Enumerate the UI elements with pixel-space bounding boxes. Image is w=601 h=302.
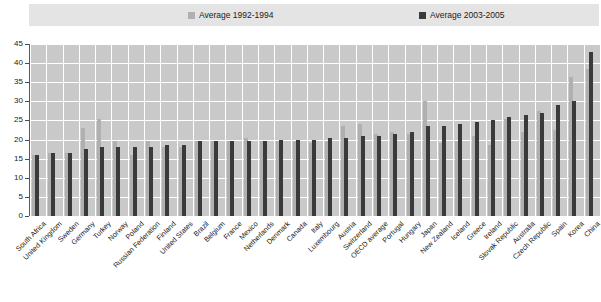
bar-average-2003-2005 bbox=[328, 138, 332, 216]
bar-group bbox=[111, 44, 127, 216]
bar-group bbox=[160, 44, 176, 216]
bar-average-2003-2005 bbox=[247, 141, 251, 216]
bar-average-2003-2005 bbox=[410, 132, 414, 216]
bar-group bbox=[551, 44, 567, 216]
y-axis-tick: 40 bbox=[0, 63, 29, 64]
bar-average-2003-2005 bbox=[524, 115, 528, 216]
bar-group bbox=[291, 44, 307, 216]
bar-average-2003-2005 bbox=[68, 153, 72, 216]
bar-average-2003-2005 bbox=[279, 140, 283, 216]
bar-average-2003-2005 bbox=[458, 124, 462, 216]
bar-average-2003-2005 bbox=[263, 141, 267, 216]
bar-group bbox=[242, 44, 258, 216]
y-axis-tick-label: 45 bbox=[14, 39, 23, 48]
bar-group bbox=[372, 44, 388, 216]
bar-group bbox=[388, 44, 404, 216]
bar-average-2003-2005 bbox=[230, 141, 234, 216]
y-axis-tick: 30 bbox=[0, 101, 29, 102]
bar-group bbox=[177, 44, 193, 216]
bar-group bbox=[486, 44, 502, 216]
bar-group bbox=[470, 44, 486, 216]
bar-group bbox=[274, 44, 290, 216]
y-axis-tick-label: 10 bbox=[14, 173, 23, 182]
bar-average-2003-2005 bbox=[116, 147, 120, 216]
bar-group bbox=[535, 44, 551, 216]
bar-average-2003-2005 bbox=[540, 113, 544, 216]
bar-average-2003-2005 bbox=[133, 147, 137, 216]
x-axis-labels: South AfricaUnited KingdomSwedenGermanyT… bbox=[29, 216, 599, 302]
bar-average-2003-2005 bbox=[507, 117, 511, 216]
bar-group bbox=[421, 44, 437, 216]
bar-average-2003-2005 bbox=[572, 101, 576, 216]
bar-average-2003-2005 bbox=[377, 136, 381, 216]
bar-average-2003-2005 bbox=[344, 138, 348, 216]
bar-average-2003-2005 bbox=[182, 145, 186, 216]
legend-entry-1992-1994: Average 1992-1994 bbox=[188, 11, 274, 20]
x-axis-label: Korea bbox=[566, 220, 585, 239]
x-axis-label: Spain bbox=[550, 220, 569, 239]
bar-average-2003-2005 bbox=[296, 140, 300, 216]
y-axis-tick: 0 bbox=[0, 216, 29, 217]
y-axis-tick-label: 20 bbox=[14, 135, 23, 144]
bar-average-2003-2005 bbox=[100, 147, 104, 216]
y-axis-tick-label: 35 bbox=[14, 77, 23, 86]
y-axis-tick-label: 40 bbox=[14, 58, 23, 67]
bar-average-2003-2005 bbox=[84, 149, 88, 216]
y-axis-tick-label: 5 bbox=[19, 192, 23, 201]
legend-entry-2003-2005: Average 2003-2005 bbox=[419, 11, 505, 20]
y-axis-tick-label: 30 bbox=[14, 96, 23, 105]
y-axis: 051015202530354045 bbox=[0, 44, 29, 216]
bar-average-2003-2005 bbox=[165, 145, 169, 216]
bar-group bbox=[453, 44, 469, 216]
legend-swatch-1992-1994 bbox=[188, 12, 195, 19]
y-axis-tick-label: 25 bbox=[14, 115, 23, 124]
plot-area bbox=[29, 44, 600, 216]
bar-group bbox=[63, 44, 79, 216]
bar-group bbox=[225, 44, 241, 216]
bar-average-2003-2005 bbox=[214, 141, 218, 216]
bar-group bbox=[209, 44, 225, 216]
bar-group bbox=[144, 44, 160, 216]
bar-group bbox=[567, 44, 583, 216]
bar-group bbox=[437, 44, 453, 216]
bar-group bbox=[307, 44, 323, 216]
bar-group bbox=[193, 44, 209, 216]
bar-group bbox=[95, 44, 111, 216]
bar-average-2003-2005 bbox=[361, 136, 365, 216]
bar-average-2003-2005 bbox=[393, 134, 397, 216]
x-axis-label: China bbox=[583, 220, 601, 239]
y-axis-tick: 35 bbox=[0, 82, 29, 83]
bar-group bbox=[323, 44, 339, 216]
legend-label-2003-2005: Average 2003-2005 bbox=[430, 11, 505, 20]
bar-group bbox=[502, 44, 518, 216]
bar-group bbox=[339, 44, 355, 216]
y-axis-tick-label: 0 bbox=[19, 211, 23, 220]
legend-label-1992-1994: Average 1992-1994 bbox=[199, 11, 274, 20]
y-axis-tick: 25 bbox=[0, 120, 29, 121]
y-axis-tick: 10 bbox=[0, 178, 29, 179]
y-axis-tick-label: 15 bbox=[14, 154, 23, 163]
bar-average-2003-2005 bbox=[198, 141, 202, 216]
bar-average-2003-2005 bbox=[491, 120, 495, 216]
bar-average-2003-2005 bbox=[149, 147, 153, 216]
bar-group bbox=[46, 44, 62, 216]
bar-average-2003-2005 bbox=[426, 126, 430, 216]
bar-group bbox=[356, 44, 372, 216]
bar-group bbox=[405, 44, 421, 216]
chart-legend: Average 1992-1994 Average 2003-2005 bbox=[29, 4, 599, 26]
y-axis-tick: 5 bbox=[0, 197, 29, 198]
bar-average-2003-2005 bbox=[312, 140, 316, 216]
bar-average-2003-2005 bbox=[475, 122, 479, 216]
y-axis-tick: 15 bbox=[0, 159, 29, 160]
y-axis-tick: 20 bbox=[0, 140, 29, 141]
bar-group bbox=[258, 44, 274, 216]
bar-group bbox=[519, 44, 535, 216]
bar-group bbox=[79, 44, 95, 216]
bar-group bbox=[128, 44, 144, 216]
bar-average-2003-2005 bbox=[35, 155, 39, 216]
legend-swatch-2003-2005 bbox=[419, 12, 426, 19]
bar-average-2003-2005 bbox=[442, 126, 446, 216]
bar-group bbox=[584, 44, 600, 216]
bar-average-2003-2005 bbox=[556, 105, 560, 216]
bar-average-2003-2005 bbox=[589, 52, 593, 216]
